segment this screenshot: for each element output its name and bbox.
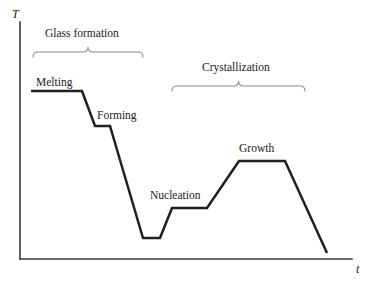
glass-formation-brace bbox=[33, 47, 143, 57]
stage-label-forming: Forming bbox=[97, 110, 137, 122]
y-axis-label: T bbox=[12, 8, 19, 20]
diagram-canvas bbox=[0, 0, 378, 284]
stage-label-melting: Melting bbox=[36, 77, 72, 89]
crystallization-brace bbox=[172, 81, 305, 91]
x-axis-label: t bbox=[356, 263, 359, 275]
temperature-profile-curve bbox=[31, 91, 327, 253]
group-label-crystallization: Crystallization bbox=[202, 62, 270, 74]
stage-label-growth: Growth bbox=[239, 143, 274, 155]
stage-label-nucleation: Nucleation bbox=[150, 190, 200, 202]
axes-group bbox=[20, 22, 352, 259]
group-label-glass-formation: Glass formation bbox=[45, 28, 119, 40]
curve-group bbox=[31, 91, 327, 253]
thermal-profile-diagram: T t Glass formation Crystallization Melt… bbox=[0, 0, 378, 284]
